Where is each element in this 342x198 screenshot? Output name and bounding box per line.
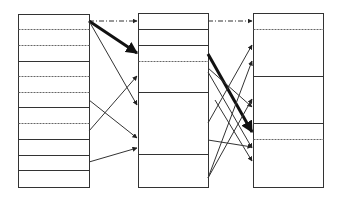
mapping-diagram: [0, 0, 342, 198]
column-box: [254, 14, 324, 188]
arrow: [89, 100, 137, 138]
column-left: [19, 15, 90, 188]
arrow: [208, 140, 252, 147]
column-box: [19, 15, 90, 188]
arrow: [89, 76, 137, 131]
arrow: [89, 148, 137, 162]
column-right: [254, 14, 324, 188]
column-middle: [139, 14, 209, 188]
arrow: [208, 68, 252, 107]
columns-layer: [19, 14, 324, 188]
arrow: [89, 21, 137, 105]
column-box: [139, 14, 209, 188]
arrow-thick: [89, 21, 137, 53]
